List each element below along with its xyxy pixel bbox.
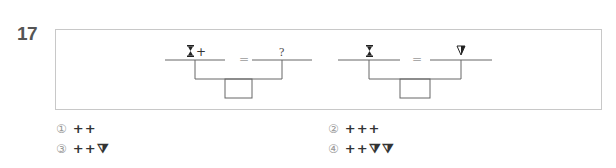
- option-value: ++⧩: [73, 141, 110, 157]
- option-value: ++: [73, 121, 97, 136]
- half-filled-triangle-icon: [457, 46, 465, 55]
- option-number: ①: [56, 122, 67, 136]
- diagram-1-equals: =: [239, 52, 249, 66]
- option-value: +++: [345, 121, 381, 136]
- diagram-2-equals: =: [412, 52, 422, 66]
- option-1[interactable]: ① ++: [56, 121, 97, 136]
- option-value: ++⧩⧩: [345, 141, 395, 157]
- plus-icon: +: [196, 45, 206, 59]
- option-4[interactable]: ④ ++⧩⧩: [328, 141, 395, 157]
- hourglass-icon: [187, 45, 194, 57]
- option-number: ②: [328, 122, 339, 136]
- option-number: ④: [328, 142, 339, 156]
- hourglass-icon: [366, 45, 373, 57]
- option-number: ③: [56, 142, 67, 156]
- option-2[interactable]: ② +++: [328, 121, 380, 136]
- option-3[interactable]: ③ ++⧩: [56, 141, 110, 157]
- question-mark: ?: [279, 45, 284, 59]
